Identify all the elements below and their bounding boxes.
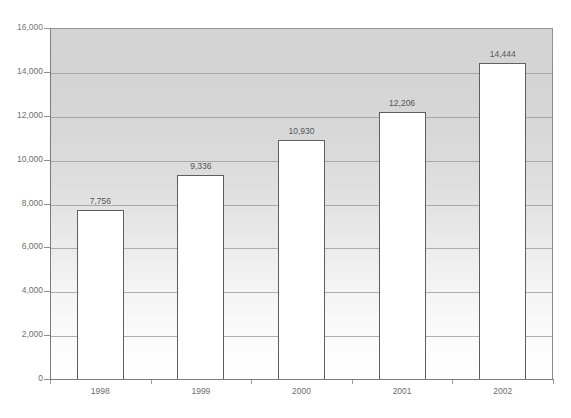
y-axis-tick xyxy=(44,335,50,336)
x-axis-tick xyxy=(553,380,554,384)
x-axis-category-label: 2002 xyxy=(473,386,533,396)
y-axis-tick-label: 8,000 xyxy=(3,199,43,208)
y-axis-tick xyxy=(44,291,50,292)
page-title xyxy=(0,0,571,1)
bar-value-label: 10,930 xyxy=(272,126,332,136)
bar-chart-figure: 02,0004,0006,0008,00010,00012,00014,0001… xyxy=(0,0,571,418)
y-axis-tick xyxy=(44,72,50,73)
x-axis-tick xyxy=(151,380,152,384)
x-axis-category-label: 1999 xyxy=(171,386,231,396)
x-axis-tick xyxy=(352,380,353,384)
x-axis-category-label: 2000 xyxy=(272,386,332,396)
x-axis-tick xyxy=(50,380,51,384)
x-axis-tick xyxy=(452,380,453,384)
bar xyxy=(379,112,426,380)
gridline xyxy=(50,117,552,118)
y-axis-tick-labels: 02,0004,0006,0008,00010,00012,00014,0001… xyxy=(0,0,43,418)
x-axis-category-label: 2001 xyxy=(372,386,432,396)
y-axis-tick-label: 2,000 xyxy=(3,330,43,339)
bar-value-label: 12,206 xyxy=(372,98,432,108)
y-axis-tick xyxy=(44,160,50,161)
y-axis-tick-label: 10,000 xyxy=(3,155,43,164)
x-axis-line xyxy=(50,379,554,380)
y-axis-tick-label: 0 xyxy=(3,374,43,383)
bar-value-label: 9,336 xyxy=(171,161,231,171)
y-axis-tick xyxy=(44,204,50,205)
bar xyxy=(479,63,526,380)
gridline xyxy=(50,73,552,74)
y-axis-tick-label: 14,000 xyxy=(3,67,43,76)
bar xyxy=(77,210,124,380)
y-axis-tick-label: 4,000 xyxy=(3,286,43,295)
x-axis-tick xyxy=(251,380,252,384)
bar-value-label: 14,444 xyxy=(473,49,533,59)
bar-value-label: 7,756 xyxy=(70,196,130,206)
y-axis-tick-label: 12,000 xyxy=(3,111,43,120)
x-axis-category-label: 1998 xyxy=(70,386,130,396)
y-axis-tick-label: 6,000 xyxy=(3,242,43,251)
y-axis-tick xyxy=(44,116,50,117)
y-axis-tick xyxy=(44,28,50,29)
bar xyxy=(177,175,224,380)
y-axis-tick xyxy=(44,247,50,248)
bar xyxy=(278,140,325,380)
y-axis-line xyxy=(50,28,51,380)
y-axis-tick-label: 16,000 xyxy=(3,23,43,32)
